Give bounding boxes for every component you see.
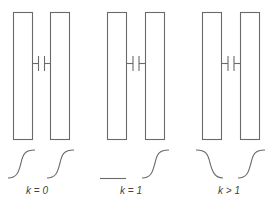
right-conductor-bar	[241, 13, 260, 140]
k-label: k = 1	[120, 185, 142, 196]
left-conductor-bar	[108, 13, 127, 140]
right-rising-curve	[238, 150, 265, 178]
right-conductor-bar	[146, 13, 165, 140]
panel-k-equals-1: k = 1	[100, 13, 169, 197]
left-falling-curve	[196, 150, 223, 178]
capacitor-icon	[222, 56, 241, 71]
capacitor-icon	[127, 56, 146, 71]
panel-k-greater-than-1: k > 1	[196, 13, 265, 197]
left-conductor-bar	[14, 13, 33, 140]
k-label: k = 0	[26, 185, 48, 196]
panel-k-equals-0: k = 0	[8, 13, 74, 197]
right-conductor-bar	[51, 13, 70, 140]
left-conductor-bar	[203, 13, 222, 140]
k-label: k > 1	[218, 185, 240, 196]
right-rising-curve	[47, 150, 74, 178]
right-rising-curve	[142, 150, 169, 178]
capacitor-icon	[33, 56, 51, 71]
left-rising-curve	[8, 150, 35, 178]
coupled-conductors-diagram: k = 0 k = 1 k > 1	[0, 0, 276, 204]
